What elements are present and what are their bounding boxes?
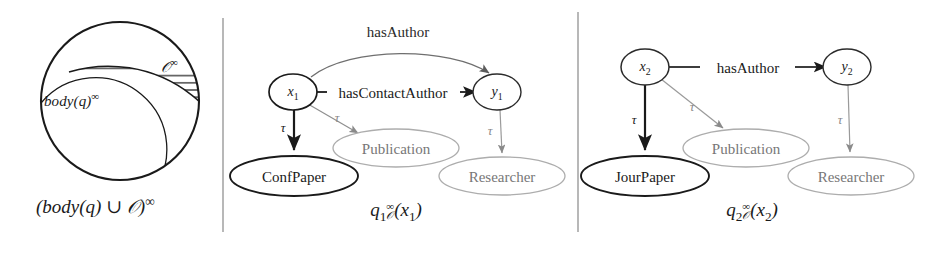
node-label-Publication-q2: Publication [712, 141, 780, 158]
edge-label-tau-x1-confpaper: τ [281, 120, 286, 136]
venn-caption: (body(q) ∪ 𝒪)∞ [36, 195, 155, 216]
edge-hasAuthor-arc [311, 54, 489, 77]
edge-label-hasAuthor-q1: hasAuthor [367, 24, 430, 41]
edge-label-tau-x2-jourpaper: τ [632, 112, 637, 128]
node-label-x2: x2 [639, 59, 650, 77]
node-label-x1: x1 [287, 84, 298, 102]
ontology-boundary [69, 66, 243, 209]
venn-ontology-label: 𝒪∞ [161, 57, 178, 75]
venn-body-label: body(q)∞ [44, 91, 99, 109]
node-label-JourPaper: JourPaper [615, 169, 675, 186]
node-label-y1: y1 [491, 84, 502, 102]
edge-label-tau-x1-publication: τ [335, 110, 340, 126]
edge-label-tau-y1-researcher: τ [488, 123, 493, 139]
edge-label-tau-y2-researcher: τ [838, 112, 843, 128]
edge-tau-x1-publication [308, 104, 358, 133]
node-label-Researcher-q1: Researcher [469, 169, 536, 186]
three-panel-figure: body(q)∞ 𝒪∞ (body(q) ∪ 𝒪)∞ x1 y1 ConfPap… [0, 0, 948, 253]
q1-caption: q1∞𝒪(x1) [370, 199, 422, 225]
edge-tau-y1-researcher [500, 110, 502, 153]
venn-diagram [41, 22, 250, 209]
q2-caption: q2∞𝒪(x2) [726, 199, 778, 225]
node-label-Researcher-q2: Researcher [818, 169, 885, 186]
edge-tau-y2-researcher [848, 85, 850, 152]
node-label-Publication-q1: Publication [362, 141, 430, 158]
node-label-y2: y2 [841, 59, 852, 77]
edge-label-hasAuthor-q2: hasAuthor [717, 60, 780, 77]
node-label-ConfPaper: ConfPaper [262, 169, 326, 186]
edge-label-tau-x2-publication: τ [690, 99, 695, 115]
edge-label-hasContactAuthor: hasContactAuthor [338, 85, 447, 102]
